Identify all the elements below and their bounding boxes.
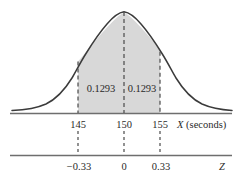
z-tick-label-zero: 0: [121, 162, 126, 173]
x-axis-label: X (seconds): [177, 120, 226, 131]
distribution-curve-graphic: [0, 0, 240, 182]
normal-distribution-figure: 0.1293 0.1293 145 150 155 X (seconds) −0…: [0, 0, 240, 182]
z-tick-label-neg033: −0.33: [67, 162, 91, 173]
x-tick-label-150: 150: [116, 120, 132, 131]
x-axis-unit-text: (seconds): [186, 119, 226, 130]
shaded-area-under-curve: [78, 13, 160, 113]
x-tick-label-155: 155: [152, 120, 168, 131]
probability-label-left: 0.1293: [87, 84, 115, 95]
x-tick-label-145: 145: [70, 120, 86, 131]
z-tick-label-pos033: 0.33: [152, 162, 170, 173]
probability-label-right: 0.1293: [128, 84, 156, 95]
z-axis-label: Z: [219, 162, 225, 173]
